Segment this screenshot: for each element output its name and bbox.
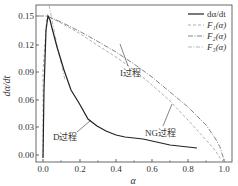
x-tick-label: 0.2 [74,164,85,174]
x-tick-label: 0.0 [37,164,49,174]
x-tick-labels: 0.0 0.2 0.4 0.6 0.8 1.0 [37,164,230,174]
annotation-ng-process: NG过程 [145,127,176,138]
x-axis [43,159,224,162]
y-tick-labels: 0.00 0.03 0.06 0.09 0.12 0.15 [18,11,34,160]
y-tick-label: 0.09 [18,67,34,77]
x-tick-label: 0.4 [110,164,122,174]
legend-label: F₂(α) [206,31,226,41]
annotation-d-leader [77,121,90,132]
x-tick-label: 1.0 [218,164,230,174]
y-tick-label: 0.06 [18,95,34,105]
annotation-ng-leader [163,104,172,126]
y-tick-label: 0.15 [18,11,34,21]
x-axis-label: α [130,175,136,186]
y-tick-label: 0.03 [18,122,34,132]
annotation-d-process: D过程 [53,131,78,142]
legend-label: F₁(α) [206,20,226,30]
y-axis-label: dα/dt [1,75,12,96]
y-tick-label: 0.00 [18,150,34,160]
legend: dα/dt F₁(α) F₂(α) F₃(α) [188,9,226,52]
y-axis [36,16,39,155]
y-tick-label: 0.12 [18,40,34,50]
annotation-i-process: I过程 [120,67,141,78]
chart: 0.00 0.03 0.06 0.09 0.12 0.15 0.0 0.2 0.… [0,0,238,186]
legend-label: dα/dt [207,9,226,19]
x-tick-label: 0.8 [182,164,194,174]
series-f3 [49,5,65,80]
x-tick-label: 0.6 [146,164,158,174]
legend-label: F₃(α) [206,42,226,52]
